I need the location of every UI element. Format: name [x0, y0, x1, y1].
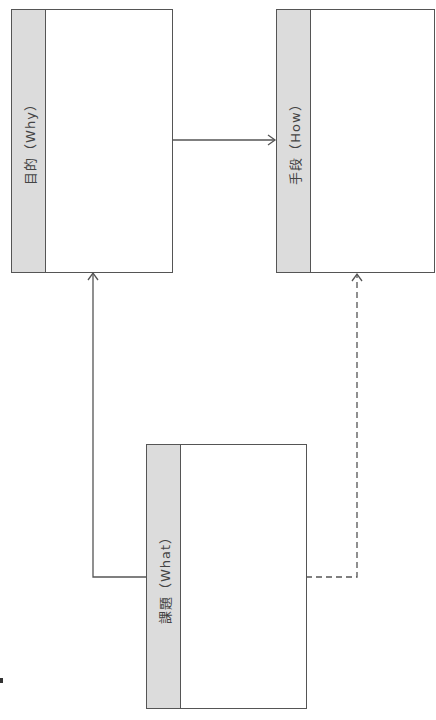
box-why-header: 目的（Why） — [12, 10, 46, 272]
box-how[interactable]: 手段（How） — [276, 9, 435, 273]
box-why-content[interactable] — [46, 10, 172, 272]
arrow-what-to-why — [88, 273, 146, 577]
box-what[interactable]: 課題（What） — [146, 444, 307, 709]
box-what-label: 課題（What） — [154, 529, 173, 623]
box-how-content[interactable] — [311, 10, 434, 272]
box-what-header: 課題（What） — [147, 445, 181, 708]
arrow-what-to-how-dashed — [306, 274, 362, 577]
box-what-content[interactable] — [181, 445, 306, 708]
box-how-label: 手段（How） — [284, 97, 303, 184]
box-why[interactable]: 目的（Why） — [11, 9, 173, 273]
edge-artifact-mark — [0, 678, 3, 683]
box-how-header: 手段（How） — [277, 10, 311, 272]
box-why-label: 目的（Why） — [19, 97, 38, 185]
arrow-why-to-how — [172, 135, 275, 145]
